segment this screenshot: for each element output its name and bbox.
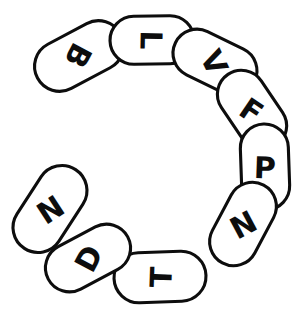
bead-letter-l: L [133,30,168,50]
ring-canvas: BLVFPNTDN [0,0,304,310]
letter-ring-figure: BLVFPNTDN [0,0,304,310]
bead-letter-t: T [143,266,179,288]
bead-letter-p: P [253,150,276,186]
